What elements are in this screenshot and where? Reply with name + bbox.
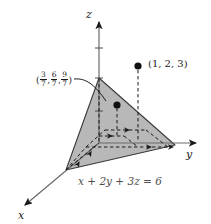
- x-axis: [25, 143, 99, 205]
- x-axis-label: x: [18, 210, 24, 221]
- closest-point-close-paren: ): [69, 75, 73, 85]
- closest-point-open-paren: (: [36, 75, 40, 85]
- closest-point-fraction-y: 67: [51, 71, 58, 87]
- external-point-label: (1, 2, 3): [148, 59, 188, 69]
- closest-point-label: (37,67,97): [36, 71, 72, 87]
- plane-equation-label: x + 2y + 3z = 6: [78, 176, 162, 187]
- point-markers: [113, 62, 141, 108]
- z-axis-label: z: [86, 9, 92, 20]
- closest-point-dot: [113, 101, 120, 108]
- closest-point-fraction-z: 97: [61, 71, 68, 87]
- external-point-dot: [134, 62, 141, 69]
- plane-distance-figure: z y x (1, 2, 3) (37,67,97) x + 2y + 3z =…: [0, 0, 211, 224]
- figure-canvas: [0, 0, 211, 224]
- closest-point-fraction-x: 37: [40, 71, 47, 87]
- y-axis-label: y: [186, 149, 192, 160]
